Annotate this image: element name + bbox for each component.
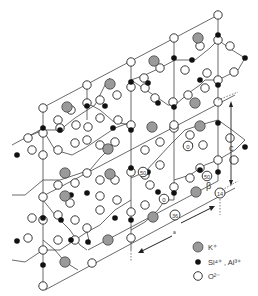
legend-label-silicon: Si⁴⁺ , Al³⁺ [208, 258, 241, 267]
legend: K⁺ Si⁴⁺ , Al³⁺ O²⁻ [193, 242, 241, 281]
beta-angle-label: β [206, 181, 211, 191]
crystal-structure-diagram: 0 50 50 0 36 14 c a β K⁺ Si⁴⁺ , Al³⁺ [0, 0, 258, 296]
svg-text:36: 36 [172, 213, 178, 219]
svg-text:50: 50 [204, 174, 210, 180]
legend-label-oxygen: O²⁻ [208, 272, 220, 281]
svg-text:50: 50 [140, 170, 146, 176]
legend-label-potassium: K⁺ [208, 243, 217, 252]
svg-text:14: 14 [217, 191, 223, 197]
silicon-legend-icon [195, 259, 201, 265]
potassium-legend-icon [193, 242, 203, 252]
c-axis-label: c [229, 143, 234, 153]
a-axis-label: a [173, 229, 176, 235]
oxygen-legend-icon [194, 272, 203, 281]
